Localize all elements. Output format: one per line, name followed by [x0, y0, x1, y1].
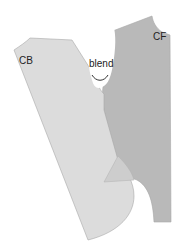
front-label: CF	[153, 31, 166, 42]
back-label: CB	[19, 55, 33, 66]
blend-label: blend	[89, 58, 113, 69]
pattern-diagram: CB CF blend	[0, 0, 179, 251]
